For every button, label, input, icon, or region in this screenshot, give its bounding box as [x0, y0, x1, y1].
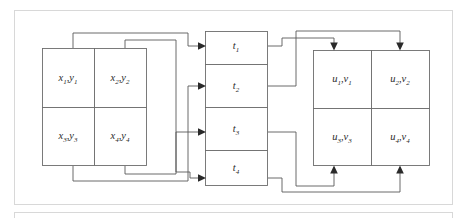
destination-matrix-block: u1,v1 u2,v2 u3,v3 u4,v4 — [314, 51, 430, 166]
t-register-column: t1 t2 t3 t4 — [206, 32, 268, 186]
figure-canvas: x1,y1 x2,y2 x3,y3 x4,y4 t1 t2 — [0, 0, 469, 218]
next-figure-frame-top-edge — [15, 213, 453, 219]
source-matrix-block: x1,y1 x2,y2 x3,y3 x4,y4 — [43, 49, 147, 166]
interconnect-diagram: x1,y1 x2,y2 x3,y3 x4,y4 t1 t2 — [0, 0, 469, 218]
